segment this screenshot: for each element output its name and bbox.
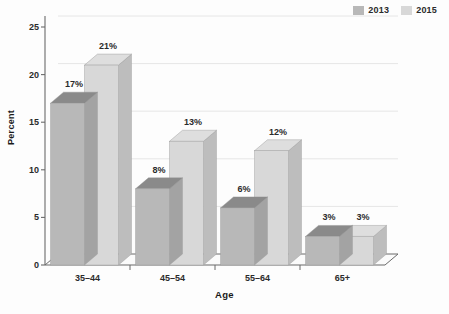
y-tick-label: 20: [29, 70, 45, 80]
bar-2013-45–54: [136, 178, 183, 265]
legend-swatch-2013: [353, 6, 364, 15]
legend-item-2013: 2013: [353, 5, 389, 15]
bar-value-label: 21%: [99, 41, 117, 51]
y-tick-label: 0: [34, 260, 45, 270]
x-tick-label: 45–54: [160, 273, 185, 283]
chart-canvas: [45, 22, 430, 270]
y-tick-label: 10: [29, 165, 45, 175]
bar-value-label: 3%: [356, 212, 369, 222]
y-axis-title: Percent: [6, 110, 16, 145]
x-axis-title: Age: [0, 289, 449, 300]
bar-2013-65+: [306, 225, 353, 265]
bar-value-label: 13%: [184, 117, 202, 127]
bar-value-label: 12%: [269, 127, 287, 137]
bar-value-label: 8%: [152, 165, 165, 175]
x-tick-label: 35–44: [75, 273, 100, 283]
y-tick-label: 5: [34, 212, 45, 222]
y-tick-label: 25: [29, 22, 45, 32]
y-tick-label: 15: [29, 117, 45, 127]
legend-swatch-2015: [401, 6, 412, 15]
x-tick-label: 65+: [335, 273, 350, 283]
bar-value-label: 6%: [237, 184, 250, 194]
x-tick-label: 55–64: [245, 273, 270, 283]
bar-2013-35–44: [51, 92, 98, 265]
bar-2013-55–64: [221, 197, 268, 265]
legend-label-2013: 2013: [368, 5, 389, 15]
bar-value-label: 3%: [322, 212, 335, 222]
legend-item-2015: 2015: [401, 5, 437, 15]
bar-value-label: 17%: [65, 79, 83, 89]
chart-legend: 2013 2015: [353, 5, 437, 15]
legend-label-2015: 2015: [416, 5, 437, 15]
bar-chart: 2013 2015 051015202521%17%13%8%12%6%3%3%…: [0, 0, 449, 314]
plot-area: 051015202521%17%13%8%12%6%3%3%35–4445–54…: [45, 22, 430, 270]
